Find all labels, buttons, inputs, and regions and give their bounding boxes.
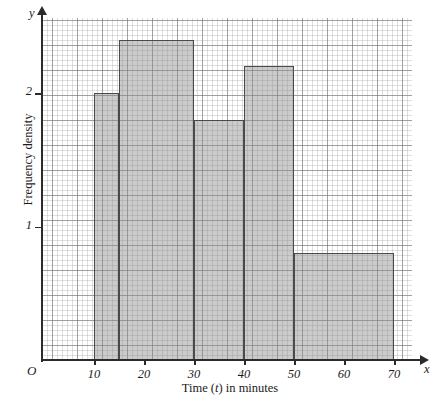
y-axis-line bbox=[41, 12, 43, 362]
histogram-bar bbox=[94, 93, 119, 360]
y-axis-title: Frequency density bbox=[21, 75, 36, 245]
y-tick bbox=[35, 93, 42, 95]
x-tick bbox=[344, 359, 346, 365]
x-tick-label: 60 bbox=[324, 367, 364, 382]
x-tick-label: 50 bbox=[274, 367, 314, 382]
x-axis-symbol: x bbox=[424, 362, 430, 377]
x-tick bbox=[394, 359, 396, 365]
x-tick bbox=[94, 359, 96, 365]
x-tick-label: 30 bbox=[174, 367, 214, 382]
x-axis-line bbox=[41, 359, 423, 361]
x-tick-label: 70 bbox=[374, 367, 414, 382]
histogram-bar bbox=[194, 120, 244, 360]
histogram-bar bbox=[294, 253, 394, 360]
y-axis-arrow-icon bbox=[37, 6, 47, 15]
histogram-chart: y x O 1020304050607012 Frequency density… bbox=[0, 0, 448, 405]
bars-layer bbox=[42, 18, 412, 360]
x-tick-label: 20 bbox=[124, 367, 164, 382]
y-axis-symbol: y bbox=[29, 6, 35, 21]
histogram-bar bbox=[119, 40, 194, 360]
x-tick bbox=[144, 359, 146, 365]
histogram-bar bbox=[244, 66, 294, 360]
x-axis-title: Time (t) in minutes bbox=[120, 381, 340, 396]
x-tick-label: 10 bbox=[74, 367, 114, 382]
origin-label: O bbox=[27, 363, 36, 379]
x-tick-label: 40 bbox=[224, 367, 264, 382]
y-tick bbox=[35, 227, 42, 229]
plot-area bbox=[42, 18, 412, 360]
x-tick bbox=[294, 359, 296, 365]
x-tick bbox=[194, 359, 196, 365]
x-tick bbox=[244, 359, 246, 365]
